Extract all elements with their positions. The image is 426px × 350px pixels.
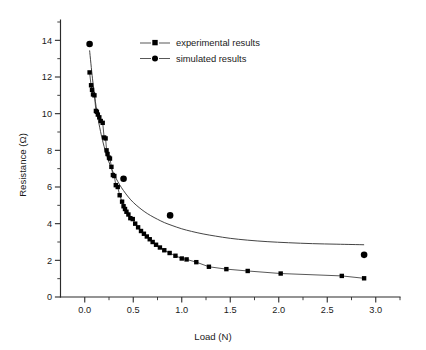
data-point-experimental [90,88,94,92]
data-point-experimental [112,174,116,178]
y-tick-label: 14 [42,36,52,46]
x-tick-label: 0.0 [78,305,91,315]
data-point-simulated [86,41,93,48]
legend-circle-marker-icon [152,56,158,62]
y-tick-label: 2 [47,256,52,266]
y-tick-label: 6 [47,182,52,192]
data-point-experimental [362,276,366,280]
legend-square-marker-icon [152,40,157,45]
data-point-experimental [194,260,198,264]
x-tick-label: 2.0 [272,305,285,315]
chart-figure: 02468101214 0.00.51.01.52.02.53.0 Load (… [0,0,426,350]
data-point-experimental [108,156,112,160]
data-point-experimental [120,199,124,203]
data-point-experimental [92,93,96,97]
legend-entry-label: experimental results [176,37,260,48]
data-point-experimental [103,136,107,140]
data-point-experimental [117,193,121,197]
y-tick-label: 10 [42,109,52,119]
data-point-experimental [207,265,211,269]
data-point-simulated [361,252,368,259]
data-point-experimental [109,165,113,169]
data-point-experimental [184,257,188,261]
data-point-experimental [224,267,228,271]
data-point-experimental [154,243,158,247]
x-axis-title: Load (N) [194,331,231,342]
data-point-experimental [173,254,177,258]
data-point-experimental [246,269,250,273]
y-tick-label: 4 [47,219,52,229]
x-tick-label: 1.0 [175,305,188,315]
data-point-experimental [278,271,282,275]
y-tick-label: 12 [42,72,52,82]
x-tick-label: 0.5 [127,305,140,315]
data-point-experimental [158,245,162,249]
x-tick-label: 3.0 [369,305,382,315]
x-tick-label: 1.5 [224,305,237,315]
data-point-experimental [167,251,171,255]
data-point-experimental [131,217,135,221]
data-point-experimental [87,70,91,74]
y-tick-label: 0 [47,292,52,302]
x-tick-label: 2.5 [321,305,334,315]
data-point-simulated [167,212,174,219]
legend-entry-label: simulated results [176,53,247,64]
data-point-experimental [116,185,120,189]
y-tick-label: 8 [47,146,52,156]
data-point-experimental [100,121,104,125]
resistance-vs-load-plot: 02468101214 0.00.51.01.52.02.53.0 Load (… [0,0,426,350]
data-point-experimental [89,83,93,87]
y-axis-title: Resistance (Ω) [17,133,28,197]
data-point-experimental [340,274,344,278]
data-point-experimental [162,248,166,252]
data-point-simulated [120,175,127,182]
data-point-experimental [180,256,184,260]
